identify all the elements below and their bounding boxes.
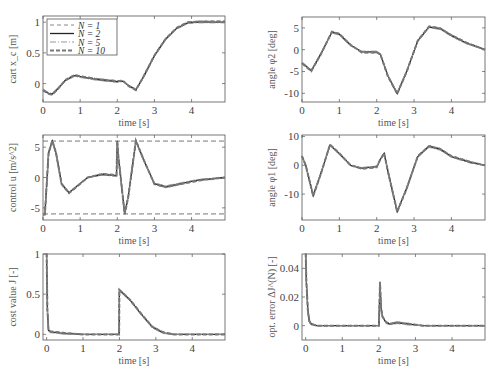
y-tick-label: 10 — [288, 130, 300, 142]
x-tick-label: 2 — [115, 222, 121, 234]
series-line — [302, 145, 485, 212]
x-tick-label: 3 — [153, 342, 159, 354]
x-axis-label: time [s] — [378, 235, 409, 246]
x-tick-label: 0 — [44, 342, 50, 354]
y-tick-label: 0.5 — [26, 47, 40, 59]
y-axis-label: opt. error ΔJ^(N) [-] — [266, 256, 278, 337]
y-tick-label: 0 — [35, 172, 41, 184]
x-tick-label: 0 — [303, 342, 309, 354]
y-tick-label: 0.04 — [280, 262, 300, 274]
chart-control: 01234-505time [s]control u [m/s^2] — [7, 135, 225, 246]
y-axis-label: control u [m/s^2] — [7, 143, 18, 212]
y-tick-label: -10 — [284, 188, 299, 200]
x-tick-label: 3 — [411, 104, 417, 116]
y-tick-label: -5 — [290, 65, 300, 77]
x-tick-label: 3 — [411, 222, 417, 234]
series-line — [47, 253, 225, 334]
x-axis-label: time [s] — [119, 235, 150, 246]
chart-cost: 0123400.51time [s]cost value J [-] — [7, 248, 225, 366]
x-tick-label: 0 — [299, 222, 305, 234]
x-tick-label: 0 — [40, 104, 46, 116]
y-tick-label: -5 — [31, 202, 41, 214]
series-line — [47, 254, 225, 334]
x-tick-label: 0 — [299, 104, 305, 116]
y-tick-label: 5 — [294, 22, 300, 34]
x-tick-label: 4 — [449, 222, 455, 234]
y-axis-label: cart x_c [m] — [7, 35, 18, 84]
y-tick-label: -10 — [284, 87, 299, 99]
series-line — [43, 141, 225, 214]
y-tick-label: 0 — [294, 44, 300, 56]
x-tick-label: 4 — [449, 104, 455, 116]
series-line — [306, 255, 485, 326]
x-tick-label: 2 — [115, 104, 121, 116]
y-tick-label: 0 — [35, 78, 41, 90]
chart-phi1: 01234-10010time [s]angle φ1 [deg] — [266, 130, 485, 246]
series-line — [302, 144, 485, 212]
series-line — [306, 254, 485, 326]
legend-entry: N = 10 — [77, 46, 105, 56]
y-axis-label: cost value J [-] — [7, 267, 18, 326]
series-line — [306, 254, 485, 326]
x-tick-label: 4 — [189, 104, 195, 116]
figure: 0123400.51time [s]cart x_c [m]01234-10-5… — [0, 0, 499, 375]
y-tick-label: 0 — [294, 159, 300, 171]
x-tick-label: 2 — [374, 104, 380, 116]
x-tick-label: 2 — [376, 342, 382, 354]
x-tick-label: 3 — [413, 342, 419, 354]
y-tick-label: 0 — [35, 328, 41, 340]
x-tick-label: 4 — [449, 342, 455, 354]
series-line — [302, 145, 485, 211]
x-axis-label: time [s] — [119, 355, 150, 366]
x-tick-label: 2 — [374, 222, 380, 234]
legend: N = 1N = 2N = 5N = 10 — [47, 19, 117, 56]
series-line — [47, 254, 225, 335]
x-tick-label: 0 — [40, 222, 46, 234]
x-tick-label: 1 — [77, 104, 83, 116]
y-tick-label: 0.5 — [26, 288, 40, 300]
chart-opt_error: 0123400.020.04time [s]opt. error ΔJ^(N) … — [266, 253, 485, 366]
y-tick-label: 0 — [294, 320, 300, 332]
x-tick-label: 1 — [80, 342, 86, 354]
chart-phi2: 01234-10-505time [s]angle φ2 [deg] — [266, 17, 485, 128]
y-axis-label: angle φ1 [deg] — [266, 148, 277, 207]
y-tick-label: 1 — [35, 16, 41, 28]
x-tick-label: 3 — [152, 104, 158, 116]
x-axis-label: time [s] — [378, 355, 409, 366]
x-tick-label: 4 — [189, 222, 195, 234]
series-line — [302, 146, 485, 211]
y-tick-label: 0.02 — [280, 291, 299, 303]
x-tick-label: 3 — [152, 222, 158, 234]
y-tick-label: 5 — [35, 141, 41, 153]
x-axis-label: time [s] — [119, 117, 150, 128]
y-axis-label: angle φ2 [deg] — [266, 30, 277, 89]
x-tick-label: 1 — [77, 222, 83, 234]
x-tick-label: 1 — [337, 104, 343, 116]
series-line — [306, 253, 485, 326]
series-line — [302, 27, 485, 94]
series-line — [47, 255, 225, 335]
x-tick-label: 1 — [340, 342, 346, 354]
x-tick-label: 1 — [337, 222, 343, 234]
y-tick-label: 1 — [35, 248, 41, 260]
x-tick-label: 2 — [117, 342, 123, 354]
x-axis-label: time [s] — [378, 117, 409, 128]
x-tick-label: 4 — [189, 342, 195, 354]
